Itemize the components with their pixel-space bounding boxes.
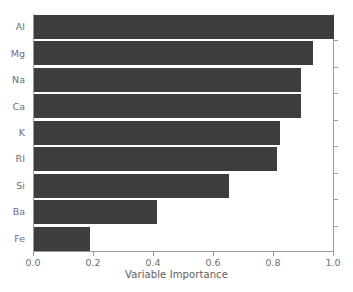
bar-row: [34, 120, 333, 146]
y-axis-tick-labels: AlMgNaCaKRISiBaFe: [0, 14, 29, 252]
bar-row: [34, 40, 333, 66]
bar-k: [34, 121, 280, 145]
x-tick-mark: [213, 252, 214, 256]
bar-ri: [34, 147, 277, 171]
x-tick-label-0-8: 0.8: [265, 257, 280, 268]
x-tick-label-0-4: 0.4: [145, 257, 160, 268]
variable-importance-bar-chart: AlMgNaCaKRISiBaFe 0.00.20.40.60.81.0 Var…: [0, 0, 353, 292]
bar-row: [34, 146, 333, 172]
x-tick-mark: [153, 252, 154, 256]
x-tick-mark: [33, 252, 34, 256]
right-tick-mark: [334, 146, 338, 147]
right-tick-mark: [334, 93, 338, 94]
x-axis-title: Variable Importance: [0, 269, 353, 280]
bar-fe: [34, 227, 90, 251]
bar-row: [34, 14, 333, 40]
right-tick-mark: [334, 67, 338, 68]
bar-row: [34, 67, 333, 93]
bar-row: [34, 93, 333, 119]
x-tick-mark: [93, 252, 94, 256]
right-tick-mark: [334, 40, 338, 41]
bar-na: [34, 68, 301, 92]
plot-area: [33, 14, 334, 252]
y-tick-label-k: K: [19, 128, 25, 138]
y-tick-label-na: Na: [12, 75, 25, 85]
y-tick-label-ri: RI: [16, 154, 25, 164]
x-tick-mark: [333, 252, 334, 256]
bar-al: [34, 15, 334, 39]
right-tick-mark: [334, 199, 338, 200]
bar-row: [34, 226, 333, 252]
bar-ba: [34, 200, 157, 224]
x-tick-label-0-0: 0.0: [25, 257, 40, 268]
right-tick-mark: [334, 173, 338, 174]
y-tick-label-ca: Ca: [13, 102, 25, 112]
y-tick-label-si: Si: [16, 181, 25, 191]
x-tick-label-1-0: 1.0: [325, 257, 340, 268]
y-tick-label-al: Al: [16, 22, 25, 32]
x-tick-label-0-6: 0.6: [205, 257, 220, 268]
y-tick-label-ba: Ba: [13, 207, 25, 217]
y-tick-label-mg: Mg: [11, 49, 25, 59]
x-tick-mark: [273, 252, 274, 256]
y-tick-label-fe: Fe: [14, 234, 25, 244]
bar-si: [34, 174, 229, 198]
right-tick-mark: [334, 120, 338, 121]
x-tick-label-0-2: 0.2: [85, 257, 100, 268]
bar-series: [34, 14, 333, 251]
bar-row: [34, 199, 333, 225]
right-tick-mark: [334, 226, 338, 227]
bar-ca: [34, 94, 301, 118]
bar-row: [34, 173, 333, 199]
bar-mg: [34, 41, 313, 65]
